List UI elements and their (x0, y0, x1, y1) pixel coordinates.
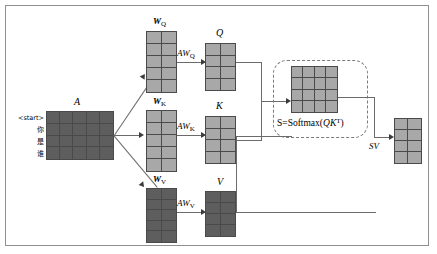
matrix-label-A: A (74, 97, 80, 107)
matrix-WV (146, 188, 177, 243)
arrowhead-A-to-WK (139, 132, 144, 138)
connector-A-to-WK (114, 135, 142, 136)
softmax-formula: S=Softmax(QKT) (277, 117, 344, 128)
connector-V-route-top (236, 136, 292, 137)
matrix-label-Q: Q (216, 28, 223, 38)
edge-label-AWK: AWK (177, 122, 195, 133)
matrix-Q (205, 43, 236, 91)
edge-label-AWQ: AWQ (177, 49, 195, 60)
token-label-2: 是 (14, 139, 44, 146)
matrix-K (205, 116, 236, 164)
matrix-V (205, 191, 236, 237)
matrix-WQ (146, 31, 177, 93)
matrix-label-V: V (217, 177, 223, 187)
edge-label-AWV: AWV (177, 199, 195, 210)
matrix-label-WV: WV (153, 175, 166, 186)
diagram-canvas: <start> 你 是 谁 A WQ AWQ Q WK (0, 0, 437, 254)
edge-label-SV: SV (369, 142, 379, 151)
matrix-SV (394, 118, 422, 164)
connector-S-out-vertical (374, 97, 375, 137)
matrix-WK (146, 110, 177, 172)
token-label-3: 谁 (14, 151, 44, 158)
matrix-label-K: K (216, 101, 223, 111)
connector-V-route-vertical-left (236, 136, 237, 213)
matrix-A (46, 111, 114, 160)
matrix-S (291, 66, 338, 113)
connector-V-out-horizontal (236, 212, 376, 213)
token-label-1: 你 (14, 127, 44, 134)
connector-K-bus-out (236, 140, 262, 141)
connector-S-out-horizontal (338, 97, 375, 98)
matrix-label-WQ: WQ (153, 17, 166, 28)
token-label-0: <start> (14, 115, 44, 122)
matrix-label-WK: WK (153, 97, 166, 108)
connector-Q-bus-out (236, 62, 262, 63)
